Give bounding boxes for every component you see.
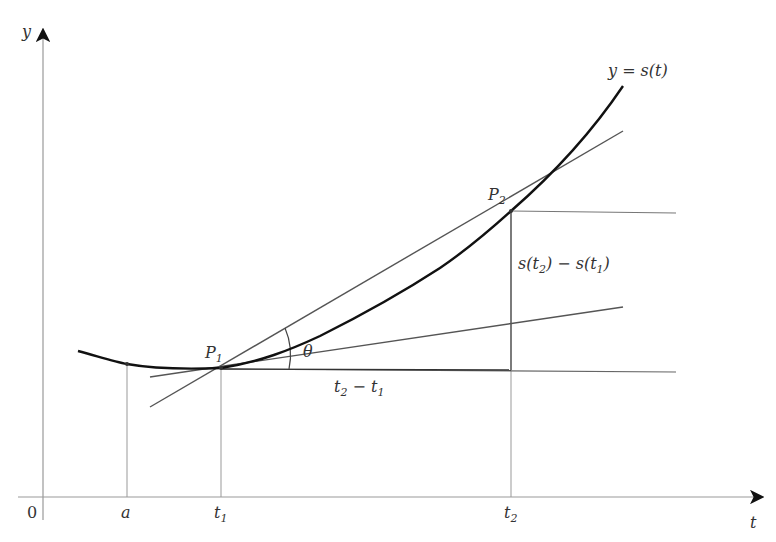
y-axis-label: y: [21, 22, 32, 41]
delta-s-label: s(t2) − s(t1): [518, 254, 610, 276]
tick-label-t1: t1: [214, 503, 227, 525]
point-label-p2: P2: [487, 185, 506, 207]
diagram-canvas: y t 0 a t1 t2 P1 P2 θ y = s(t) t2 − t1 s…: [0, 0, 776, 542]
curve-label: y = s(t): [607, 61, 668, 80]
point-a: [125, 362, 129, 366]
horizontal-p2: [511, 211, 676, 213]
angle-label: θ: [303, 342, 313, 361]
curve-s-of-t: [78, 86, 623, 369]
x-axis-label: t: [750, 513, 757, 532]
tick-label-t2: t2: [504, 503, 517, 525]
axes: [18, 30, 762, 520]
point-p1: [219, 366, 223, 370]
point-p2: [509, 209, 513, 213]
point-label-p1: P1: [204, 343, 223, 365]
horizontal-p1-dark: [221, 369, 511, 370]
delta-t-label: t2 − t1: [334, 377, 384, 399]
origin-label: 0: [27, 503, 37, 522]
tick-label-a: a: [121, 503, 131, 522]
